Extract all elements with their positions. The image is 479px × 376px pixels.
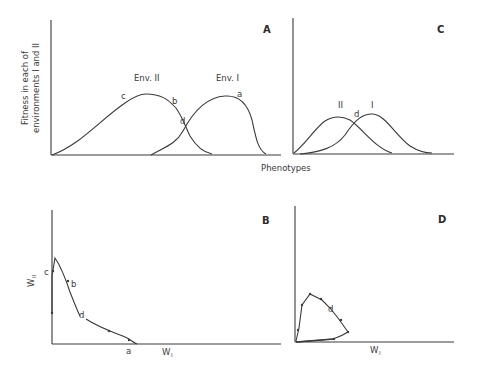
panel-d-marker [320, 298, 322, 300]
panel-a-point-a: a [237, 89, 242, 99]
panel-d-marker [301, 304, 303, 306]
shared-y-label: Fitness in each of environments I and II [20, 43, 41, 133]
panel-c-point-d: d [354, 109, 359, 119]
panel-d-fitness-set-curve [296, 294, 348, 342]
panel-b-point-c: c [44, 267, 49, 277]
panel-b-point-d: d [79, 310, 84, 320]
panel-d-marker [347, 331, 349, 333]
panel-b-y-label: W II [26, 274, 37, 287]
panel-a-point-b: b [172, 96, 177, 106]
panel-b-marker [51, 312, 53, 314]
panel-c-env2-curve [294, 117, 392, 153]
panel-a-letter: A [263, 24, 271, 35]
svg-text:II: II [31, 274, 37, 278]
svg-text:I: I [379, 350, 381, 356]
svg-text:I: I [171, 352, 173, 358]
panel-d-point-d: d [328, 304, 333, 314]
panel-b-marker [67, 280, 69, 282]
figure-canvas: Env. II Env. I c b d a A Fitness in each… [0, 0, 479, 376]
panel-b-point-a: a [126, 346, 131, 356]
panel-b-x-label: W I [162, 347, 173, 358]
panel-d-x-label: W I [370, 345, 381, 356]
panel-a-env1-curve [151, 96, 266, 155]
panel-c-env1-label: I [371, 100, 374, 110]
panel-d-marker [297, 329, 299, 331]
panel-b-point-b: b [71, 279, 76, 289]
y-label-line2: environments I and II [31, 43, 41, 133]
y-label-line1: Fitness in each of [20, 50, 30, 125]
panel-c-letter: C [437, 24, 444, 35]
panel-a-env1-label: Env. I [216, 73, 239, 83]
svg-text:W: W [162, 347, 171, 357]
panel-a-point-c: c [121, 91, 126, 101]
panel-b-marker [52, 270, 54, 272]
panel-b: c b d a W I W II B [26, 210, 281, 358]
panel-b-letter: B [262, 215, 270, 226]
svg-text:W: W [26, 278, 36, 287]
panel-b-marker [128, 339, 130, 341]
panel-c: II I d C [293, 18, 454, 154]
panel-d: d W I D [295, 206, 454, 356]
panel-d-letter: D [438, 214, 446, 225]
panel-a: Env. II Env. I c b d a A [51, 20, 281, 155]
panel-d-marker [309, 293, 311, 295]
shared-x-label: Phenotypes [261, 163, 311, 173]
svg-text:W: W [370, 345, 379, 355]
panel-b-fitness-set-curve [52, 258, 137, 344]
panel-a-point-d: d [180, 116, 185, 126]
panel-b-marker [108, 330, 110, 332]
panel-a-env2-curve [52, 94, 212, 155]
panel-c-env2-label: II [338, 100, 343, 110]
panel-a-env2-label: Env. II [134, 73, 160, 83]
panel-d-marker [340, 319, 342, 321]
panel-d-marker [333, 338, 335, 340]
